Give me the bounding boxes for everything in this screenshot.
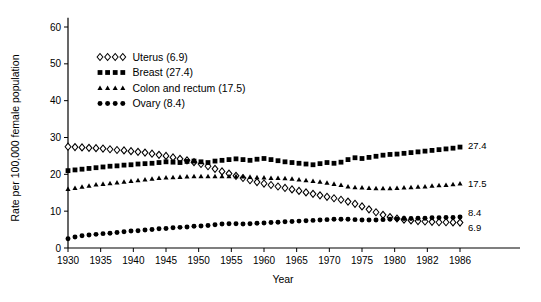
data-point [192,224,197,229]
data-point [108,231,113,236]
data-point [283,159,288,164]
data-point [262,220,267,225]
data-point [374,218,379,223]
legend-marker [105,101,110,106]
data-point [325,217,330,222]
data-point [332,217,337,222]
data-point [234,156,239,161]
data-point [381,153,386,158]
data-point [185,159,190,164]
data-point [234,221,239,226]
data-point [80,167,85,172]
data-point [318,161,323,166]
data-point [437,147,442,152]
data-point [451,215,456,220]
data-point [213,159,218,164]
legend-marker [113,70,118,75]
data-point [381,217,386,222]
end-label-uterus: 6.9 [468,222,481,233]
data-point [87,233,92,238]
x-tick-label: 1945 [155,255,178,266]
data-point [297,219,302,224]
data-point [199,159,204,164]
data-point [374,154,379,159]
y-tick-label: 40 [50,95,62,106]
y-tick-label: 20 [50,169,62,180]
data-point [262,156,267,161]
data-point [87,166,92,171]
legend-label: Ovary (8.4) [132,97,185,109]
chart-container: 0102030405060 19301935194019451950195519… [0,0,541,302]
y-tick-label: 10 [50,206,62,217]
x-tick-label: 1950 [188,255,211,266]
x-tick-label: 1940 [122,255,145,266]
data-point [458,215,463,220]
y-axis-title: Rate per 100,000 female population [9,54,21,221]
data-point [325,160,330,165]
legend-label: Colon and rectum (17.5) [132,82,245,94]
data-point [339,160,344,165]
data-point [101,165,106,170]
data-point [360,218,365,223]
data-point [290,160,295,165]
data-point [290,219,295,224]
data-point [402,216,407,221]
data-point [220,158,225,163]
data-point [353,217,358,222]
data-point [199,223,204,228]
data-point [143,161,148,166]
data-point [409,150,414,155]
data-point [395,152,400,157]
data-point [346,217,351,222]
x-tick-label: 1975 [351,255,374,266]
data-point [129,162,134,167]
data-point [248,158,253,163]
legend-label: Breast (27.4) [132,66,193,78]
data-point [451,146,456,151]
data-point [94,232,99,237]
data-point [409,216,414,221]
data-point [171,225,176,230]
data-point [388,152,393,157]
data-point [402,151,407,156]
data-point [227,221,232,226]
data-point [213,222,218,227]
data-point [276,158,281,163]
data-point [150,227,155,232]
legend-marker [98,70,103,75]
x-tick-label: 1980 [384,255,407,266]
data-point [136,228,141,233]
data-point [115,230,120,235]
data-point [206,223,211,228]
x-tick-label: 1965 [286,255,309,266]
y-tick-label: 50 [50,58,62,69]
data-point [444,215,449,220]
data-point [248,221,253,226]
data-point [150,161,155,166]
x-axis-title: Year [272,273,294,285]
data-point [297,161,302,166]
data-point [430,148,435,153]
x-tick-label: 1935 [90,255,113,266]
legend-label: Uterus (6.9) [132,51,187,63]
legend-marker [113,101,118,106]
legend-marker [120,70,125,75]
x-tick-label: 1930 [57,255,80,266]
data-point [304,162,309,167]
data-point [255,221,260,226]
data-point [185,225,190,230]
data-point [339,217,344,222]
data-point [178,160,183,165]
data-point [304,218,309,223]
data-point [220,222,225,227]
data-point [136,162,141,167]
data-point [122,229,127,234]
x-tick-label: 1982 [416,255,439,266]
data-point [171,160,176,165]
data-point [416,216,421,221]
data-point [416,149,421,154]
data-point [332,161,337,166]
data-point [458,145,463,150]
data-point [143,227,148,232]
data-point [423,149,428,154]
